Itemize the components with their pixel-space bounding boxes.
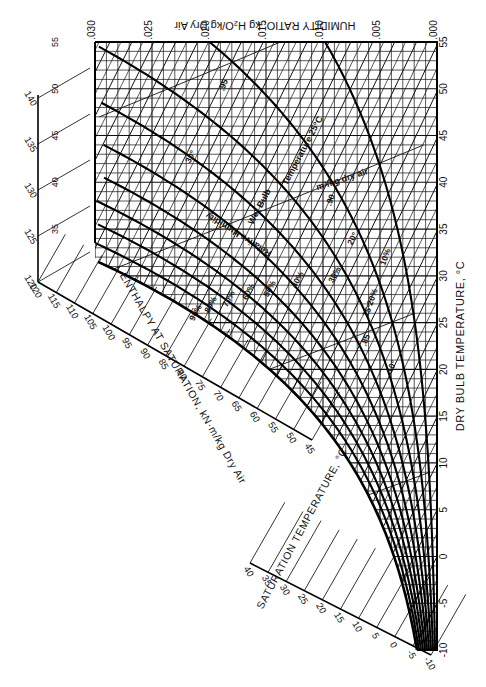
svg-text:45: 45	[303, 441, 318, 456]
svg-text:Temperature 25°C: Temperature 25°C	[280, 114, 325, 187]
svg-text:95: 95	[120, 336, 135, 351]
svg-text:.90: .90	[323, 192, 337, 207]
dry-bulb-tick: 25	[438, 317, 449, 329]
svg-text:140: 140	[22, 89, 39, 108]
humidity-tick: .005	[371, 20, 382, 40]
dry-bulb-tick: 30	[438, 270, 449, 282]
svg-text:40: 40	[242, 564, 257, 579]
dry-bulb-tick: 45	[438, 130, 449, 142]
svg-text:30°: 30°	[183, 148, 198, 165]
dry-bulb-tick: 10	[438, 457, 449, 469]
y-axis-title: HUMIDITY RATIO, kg H₂O/kg Dry Air	[174, 20, 355, 32]
humidity-tick: .000	[428, 20, 439, 40]
dry-bulb-tick: -10	[438, 642, 449, 657]
svg-text:-10: -10	[422, 655, 438, 672]
svg-text:70: 70	[211, 388, 226, 403]
svg-text:55: 55	[50, 37, 60, 47]
svg-text:10: 10	[350, 619, 365, 634]
psychrometric-chart: -10-505101520253035404550556065707580859…	[0, 0, 486, 687]
svg-text:40%: 40%	[289, 269, 306, 289]
dry-bulb-tick: 35	[438, 223, 449, 235]
svg-text:25: 25	[296, 592, 311, 607]
dry-bulb-tick: 20	[438, 363, 449, 375]
saturation-title: SATURATION TEMPERATURE, °C	[254, 446, 349, 611]
svg-text:40: 40	[50, 177, 60, 187]
svg-text:90: 90	[138, 346, 153, 361]
svg-text:135: 135	[22, 135, 39, 154]
svg-text:55: 55	[266, 420, 281, 435]
dry-bulb-tick: 15	[438, 410, 449, 422]
dry-bulb-tick: -5	[438, 598, 449, 607]
dry-bulb-tick: 55	[438, 36, 449, 48]
svg-text:50: 50	[50, 84, 60, 94]
dry-bulb-tick: 50	[438, 83, 449, 95]
svg-text:Wet Bulb: Wet Bulb	[246, 187, 273, 226]
x-axis-title: DRY BULB TEMPERATURE, °C	[454, 261, 466, 431]
svg-text:15: 15	[332, 610, 347, 625]
dry-bulb-tick: 0	[438, 553, 449, 559]
svg-text:50: 50	[284, 430, 299, 445]
svg-text:35: 35	[50, 224, 60, 234]
svg-text:45: 45	[50, 131, 60, 141]
svg-text:30%: 30%	[326, 264, 343, 284]
dry-bulb-tick: 40	[438, 176, 449, 188]
humidity-tick: .030	[86, 20, 97, 40]
svg-text:20: 20	[314, 601, 329, 616]
humidity-tick: .025	[143, 20, 154, 40]
svg-text:-5: -5	[405, 648, 419, 661]
svg-text:0: 0	[388, 640, 400, 650]
svg-text:5: 5	[370, 631, 382, 641]
svg-text:125: 125	[22, 227, 39, 246]
dry-bulb-tick: 5	[438, 506, 449, 512]
svg-text:130: 130	[22, 181, 39, 200]
svg-text:65: 65	[230, 399, 245, 414]
svg-text:60: 60	[248, 409, 263, 424]
svg-text:30: 30	[278, 582, 293, 597]
